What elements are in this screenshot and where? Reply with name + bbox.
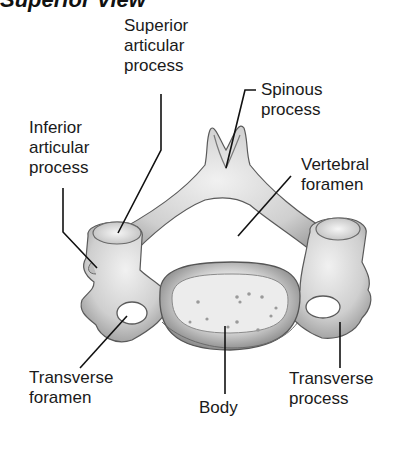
label-line: Spinous <box>261 80 322 100</box>
vertebral-body <box>160 262 300 350</box>
label-line: process <box>124 56 188 76</box>
label-line: Transverse <box>29 368 113 388</box>
label-line: Transverse <box>289 369 373 389</box>
label-transverse-process: Transverse process <box>289 369 373 409</box>
label-spinous-process: Spinous process <box>261 80 322 120</box>
label-line: articular <box>29 138 89 158</box>
label-transverse-foramen: Transverse foramen <box>29 368 113 408</box>
left-transverse-foramen <box>117 302 147 324</box>
label-line: process <box>261 100 322 120</box>
left-lateral-mass <box>81 222 170 342</box>
label-line: process <box>289 389 373 409</box>
label-inferior-articular-process: Inferior articular process <box>29 118 89 178</box>
label-line: Vertebral <box>301 155 369 175</box>
label-body: Body <box>199 398 238 418</box>
label-line: process <box>29 158 89 178</box>
label-line: Superior <box>124 16 188 36</box>
label-superior-articular-process: Superior articular process <box>124 16 188 76</box>
right-superior-facet <box>316 218 360 240</box>
label-line: Body <box>199 398 238 418</box>
label-vertebral-foramen: Vertebral foramen <box>301 155 369 195</box>
right-transverse-foramen <box>306 296 340 318</box>
label-line: Inferior <box>29 118 89 138</box>
label-line: foramen <box>301 175 369 195</box>
label-line: articular <box>124 36 188 56</box>
label-line: foramen <box>29 388 113 408</box>
diagram-stage: Superior View <box>0 0 412 453</box>
left-superior-facet <box>93 222 141 244</box>
